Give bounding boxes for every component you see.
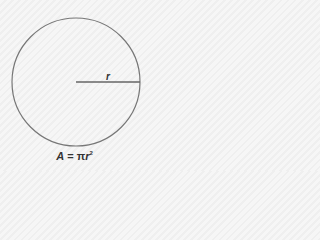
circle-diagram <box>0 0 149 171</box>
area-formula: A = πr2 <box>0 150 149 162</box>
radius-label: r <box>106 71 110 82</box>
